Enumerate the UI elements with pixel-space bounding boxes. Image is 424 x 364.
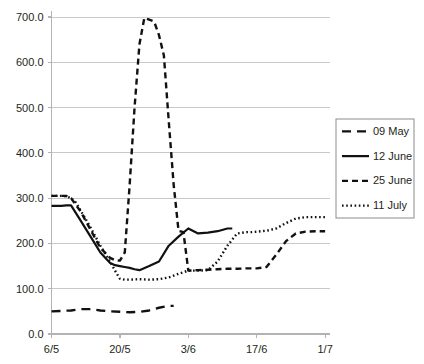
y-tick-label-500: 500.0 (16, 102, 44, 114)
x-tick-label-1: 20/5 (109, 343, 130, 355)
y-tick-label-700: 700.0 (16, 11, 44, 23)
legend-label-11-july: 11 July (373, 199, 408, 211)
y-tick-label-300: 300.0 (16, 192, 44, 204)
line-chart: 0.0100.0200.0300.0400.0500.0600.0700.0 6… (0, 0, 424, 364)
series-line-25-june (52, 18, 326, 271)
x-tick-label-2: 3/6 (181, 343, 196, 355)
y-tick-label-200: 200.0 (16, 237, 44, 249)
x-tick-label-3: 17/6 (246, 343, 267, 355)
y-tick-label-600: 600.0 (16, 56, 44, 68)
y-tick-label-100: 100.0 (16, 283, 44, 295)
series-line-09-may (52, 306, 174, 312)
x-tick-label-4: 1/7 (317, 343, 332, 355)
legend-label-09-may: 09 May (373, 125, 410, 137)
series-line-12-june (52, 205, 233, 270)
y-tick-label-0: 0.0 (28, 328, 43, 340)
y-axis-tick-labels: 0.0100.0200.0300.0400.0500.0600.0700.0 (16, 11, 44, 340)
chart-canvas: 0.0100.0200.0300.0400.0500.0600.0700.0 6… (0, 0, 424, 364)
x-axis-tick-labels: 6/520/53/617/61/7 (44, 343, 333, 355)
legend-label-25-june: 25 June (373, 174, 412, 186)
gridlines-group (52, 17, 331, 289)
x-tick-label-0: 6/5 (44, 343, 59, 355)
chart-legend: 09 May12 June25 June11 July (336, 119, 414, 218)
legend-label-12-june: 12 June (373, 150, 412, 162)
y-tick-label-400: 400.0 (16, 147, 44, 159)
